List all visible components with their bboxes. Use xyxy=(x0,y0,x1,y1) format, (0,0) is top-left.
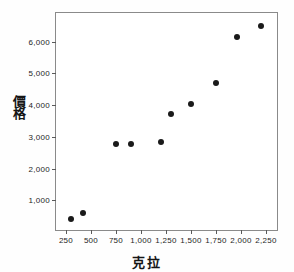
x-axis-tick-label: 1,000 xyxy=(130,236,152,245)
y-axis-title-char-2: 格 xyxy=(10,108,28,120)
y-axis-tick xyxy=(52,73,56,74)
x-axis-tick-label: 250 xyxy=(59,236,73,245)
data-point xyxy=(168,111,174,117)
y-axis-tick xyxy=(52,200,56,201)
x-axis-tick xyxy=(266,230,267,234)
x-axis-tick-label: 500 xyxy=(84,236,98,245)
data-point xyxy=(213,80,219,86)
x-axis-tick xyxy=(91,230,92,234)
x-axis-tick-label: 1,250 xyxy=(155,236,177,245)
data-point xyxy=(158,139,164,145)
data-point xyxy=(258,23,264,29)
y-axis-tick xyxy=(52,169,56,170)
y-axis-tick-label: 3,000 xyxy=(28,132,50,141)
y-axis-tick xyxy=(52,105,56,106)
x-axis-tick-label: 750 xyxy=(109,236,123,245)
scatter-chart: 價 格 1,0002,0003,0004,0005,0006,000250500… xyxy=(0,0,294,272)
y-axis-tick-label: 2,000 xyxy=(28,164,50,173)
y-axis-title: 價 格 xyxy=(10,96,28,120)
x-axis-tick xyxy=(191,230,192,234)
y-axis-tick-label: 6,000 xyxy=(28,37,50,46)
x-axis-tick-label: 1,500 xyxy=(180,236,202,245)
x-axis-tick xyxy=(116,230,117,234)
data-point xyxy=(234,34,240,40)
data-point xyxy=(128,141,134,147)
data-point xyxy=(188,101,194,107)
x-axis-tick xyxy=(241,230,242,234)
y-axis-tick-label: 5,000 xyxy=(28,69,50,78)
x-axis-title: 克拉 xyxy=(0,252,294,271)
y-axis-tick xyxy=(52,42,56,43)
x-axis-tick-label: 2,250 xyxy=(255,236,277,245)
x-axis-tick-label: 1,750 xyxy=(205,236,227,245)
x-axis-tick xyxy=(216,230,217,234)
plot-area: 1,0002,0003,0004,0005,0006,0002505007501… xyxy=(56,13,277,230)
data-point xyxy=(113,141,119,147)
data-point xyxy=(68,216,74,222)
y-axis-tick xyxy=(52,137,56,138)
x-axis-tick xyxy=(66,230,67,234)
y-axis-tick-label: 4,000 xyxy=(28,101,50,110)
x-axis-tick xyxy=(166,230,167,234)
x-axis-tick xyxy=(141,230,142,234)
data-point xyxy=(80,210,86,216)
y-axis-tick-label: 1,000 xyxy=(28,196,50,205)
plot-frame: 1,0002,0003,0004,0005,0006,0002505007501… xyxy=(55,12,278,231)
x-axis-tick-label: 2,000 xyxy=(230,236,252,245)
